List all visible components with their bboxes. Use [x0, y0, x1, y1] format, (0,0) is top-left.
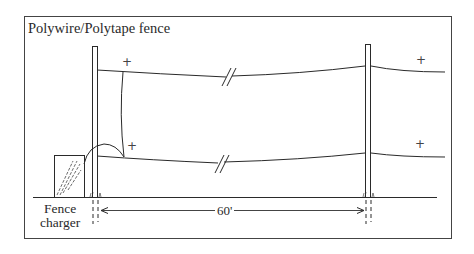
bottom-wire: [97, 156, 218, 163]
jumper-wire: [121, 72, 124, 157]
diagram-frame: [25, 17, 452, 239]
charger-label-line2: charger: [40, 216, 80, 230]
polarity-top-left: +: [122, 55, 132, 69]
polarity-bottom-left: +: [127, 139, 137, 153]
diagram-title: Polywire/Polytape fence: [28, 20, 170, 37]
charger-lead: [84, 144, 124, 164]
polarity-top-right: +: [416, 53, 426, 67]
right-post: [366, 45, 371, 198]
charger-label-line1: Fence: [40, 202, 80, 216]
left-post: [93, 47, 98, 198]
polarity-bottom-right: +: [415, 137, 425, 151]
dimension-label: 60': [215, 203, 234, 219]
bottom-break-symbol: [215, 155, 229, 173]
top-wire: [97, 70, 226, 77]
fence-charger-label: Fence charger: [40, 202, 80, 230]
